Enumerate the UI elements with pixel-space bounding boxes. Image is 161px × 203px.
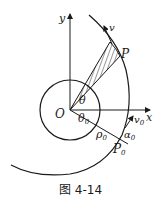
theta0-label: θ0 (78, 112, 90, 126)
point-p0-label: P0 (112, 142, 126, 157)
x-axis-label: x (146, 111, 153, 124)
velocity-label: v (109, 22, 115, 33)
spiral-orbit-diagram: y x O P v θ θ0 ρ0 α0 v0 P0 (0, 0, 161, 203)
y-axis-label: y (58, 12, 66, 25)
point-p-label: P (120, 47, 130, 61)
figure-caption: 图 4-14 (0, 180, 161, 197)
rho0-label: ρ0 (95, 128, 107, 142)
swept-area (70, 42, 120, 110)
theta-label: θ (79, 94, 86, 107)
alpha0-label: α0 (124, 129, 136, 142)
origin-label: O (55, 107, 65, 121)
velocity0-label: v0 (134, 114, 145, 127)
